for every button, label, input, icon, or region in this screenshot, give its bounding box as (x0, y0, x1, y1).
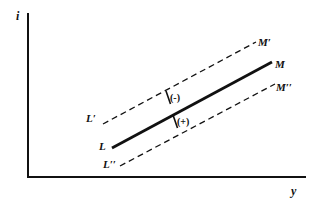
y-axis-label: i (16, 10, 19, 22)
annotation-negative-sign: (-) (170, 93, 180, 103)
curve-label-m-double-prime: M′′ (276, 82, 292, 93)
curve-label-l-double-prime: L′′ (103, 159, 116, 170)
curve-l-m (112, 62, 272, 148)
figure-canvas (0, 0, 322, 205)
annotation-positive-sign: (+) (177, 117, 189, 127)
x-axis-label: y (291, 185, 296, 197)
curve-l-double-prime-m-double-prime (120, 84, 275, 166)
curve-label-m: M (275, 59, 285, 70)
curve-label-m-prime: M′ (258, 37, 271, 48)
curve-label-l-prime: L′ (86, 113, 96, 124)
is-lm-figure: i y M′ M M′′ L′ L L′′ (-) (+) (0, 0, 322, 205)
curve-label-l: L (99, 141, 106, 152)
